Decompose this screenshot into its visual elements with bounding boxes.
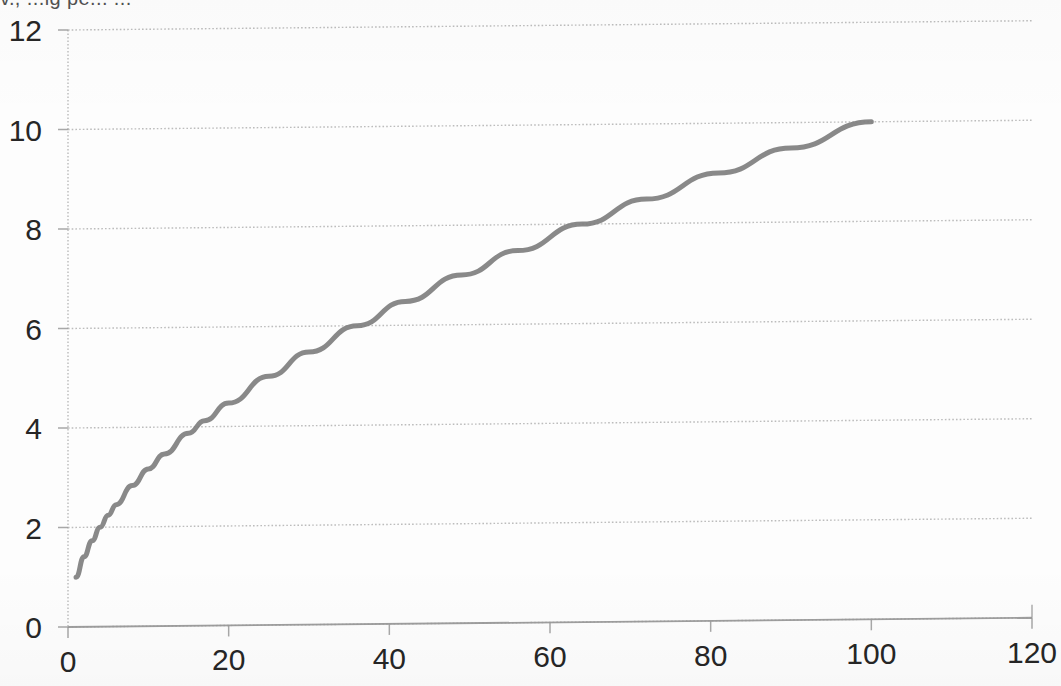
y-tick-label: 0 [25,611,42,644]
x-tick-label: 20 [212,643,245,676]
line-chart: 024681012 020406080100120 [0,0,1061,686]
chart-canvas: 024681012 020406080100120 [0,0,1061,686]
y-tick-label: 8 [25,213,42,246]
x-tick-label: 120 [1007,636,1057,669]
x-tick-labels-group: 020406080100120 [60,636,1057,678]
x-tick-label: 80 [694,639,727,672]
axes-group [68,30,1032,627]
y-tick-label: 12 [9,14,42,47]
y-tick-labels-group: 024681012 [9,14,42,644]
chart-page: v., ...ig pe... ... 024681012 0204060801… [0,0,1061,686]
data-series-group [76,122,871,577]
x-tick-label: 100 [846,637,896,670]
x-tick-label: 0 [60,645,77,678]
y-tick-label: 6 [25,313,42,346]
x-tick-label: 40 [373,642,406,675]
gridlines-group [68,21,1032,627]
y-tick-label: 4 [25,412,42,445]
y-tick-label: 2 [25,512,42,545]
x-tick-label: 60 [533,640,566,673]
y-tick-label: 10 [9,114,42,147]
